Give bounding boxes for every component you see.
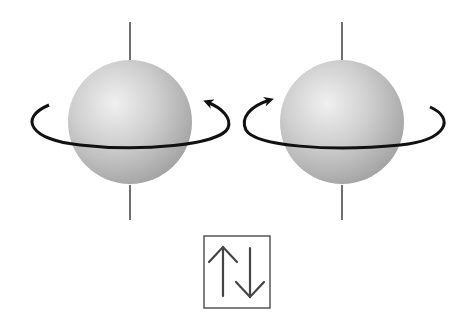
orbital-box	[204, 236, 270, 308]
spin-right	[244, 22, 444, 220]
spin-left	[32, 22, 229, 220]
sphere	[68, 60, 192, 184]
spin-diagram	[0, 0, 465, 326]
sphere	[280, 60, 404, 184]
